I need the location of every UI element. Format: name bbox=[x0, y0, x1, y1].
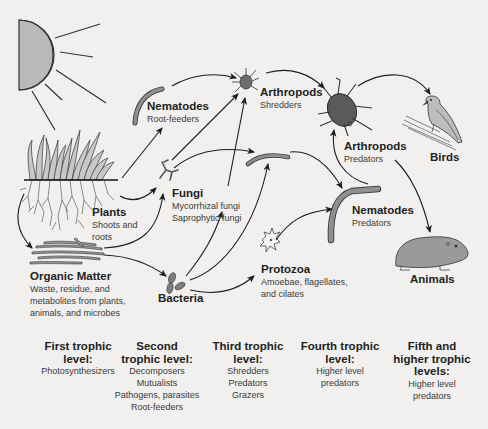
node-organic-matter: Organic Matter Waste, residue, and metab… bbox=[30, 270, 126, 319]
fungi-hyphae-icon bbox=[160, 160, 178, 180]
trophic-level-heading: Second bbox=[106, 340, 208, 353]
node-subtitle: Waste, residue, and bbox=[30, 283, 126, 295]
node-subtitle: Predators bbox=[352, 217, 414, 229]
trophic-level-5: Fifth and higher trophic levels: Higher … bbox=[392, 340, 472, 402]
node-title: Protozoa bbox=[261, 263, 348, 276]
node-nematodes-predators: Nematodes Predators bbox=[352, 204, 414, 229]
node-title: Arthropods bbox=[344, 140, 407, 153]
node-subtitle: and cilates bbox=[261, 288, 348, 300]
mammal-icon bbox=[396, 237, 468, 270]
trophic-level-item: Higher level bbox=[392, 378, 472, 390]
node-arthropods-shredders: Arthropods Shredders bbox=[260, 86, 323, 111]
beetle-icon bbox=[318, 78, 372, 136]
node-title: Birds bbox=[430, 151, 459, 164]
arrows bbox=[18, 70, 430, 292]
node-subtitle: Amoebae, flagellates, bbox=[261, 276, 348, 288]
node-subtitle: roots bbox=[92, 231, 138, 243]
trophic-level-item: Root-feeders bbox=[106, 401, 208, 413]
bacteria-icon bbox=[166, 272, 186, 294]
node-title: Arthropods bbox=[260, 86, 323, 99]
trophic-level-heading: Third trophic bbox=[208, 340, 288, 353]
trophic-level-4: Fourth trophic level: Higher level preda… bbox=[300, 340, 380, 389]
node-nematodes-root-feeders: Nematodes Root-feeders bbox=[147, 100, 209, 125]
node-title: Animals bbox=[410, 273, 455, 286]
trophic-level-heading: Fourth trophic bbox=[300, 340, 380, 353]
node-subtitle: Root-feeders bbox=[147, 113, 209, 125]
node-plants: Plants Shoots and roots bbox=[92, 206, 138, 243]
trophic-level-3: Third trophic level: Shredders Predators… bbox=[208, 340, 288, 401]
trophic-level-heading: levels: bbox=[392, 365, 472, 378]
trophic-level-heading: higher trophic bbox=[392, 353, 472, 366]
node-title: Fungi bbox=[172, 187, 242, 200]
node-title: Plants bbox=[92, 206, 138, 219]
node-subtitle: Shredders bbox=[260, 99, 323, 111]
node-title: Organic Matter bbox=[30, 270, 126, 283]
trophic-level-item: predators bbox=[392, 390, 472, 402]
node-title: Bacteria bbox=[158, 292, 203, 305]
trophic-level-item: Pathogens, parasites bbox=[106, 389, 208, 401]
node-bacteria: Bacteria bbox=[158, 292, 203, 305]
trophic-level-item: Predators bbox=[208, 377, 288, 389]
trophic-level-heading: level: bbox=[300, 353, 380, 366]
trophic-level-heading: Fifth and bbox=[392, 340, 472, 353]
node-subtitle: Saprophytic fungi bbox=[172, 212, 242, 224]
trophic-level-heading: level: bbox=[208, 353, 288, 366]
node-animals: Animals bbox=[410, 273, 455, 286]
node-subtitle: metabolites from plants, bbox=[30, 295, 126, 307]
trophic-level-item: predators bbox=[300, 377, 380, 389]
node-subtitle: Shoots and bbox=[92, 219, 138, 231]
node-title: Nematodes bbox=[147, 100, 209, 113]
trophic-level-heading: trophic level: bbox=[106, 353, 208, 366]
node-fungi: Fungi Mycorrhizal fungi Saprophytic fung… bbox=[172, 187, 242, 224]
node-birds: Birds bbox=[430, 151, 459, 164]
trophic-level-item: Decomposers bbox=[106, 365, 208, 377]
trophic-level-item: Shredders bbox=[208, 365, 288, 377]
protozoa-icon bbox=[260, 228, 280, 252]
bird-icon bbox=[402, 96, 462, 150]
node-arthropods-predators: Arthropods Predators bbox=[344, 140, 407, 165]
trophic-level-item: Mutualists bbox=[106, 377, 208, 389]
sun-icon bbox=[19, 20, 106, 130]
node-protozoa: Protozoa Amoebae, flagellates, and cilat… bbox=[261, 263, 348, 300]
node-subtitle: animals, and microbes bbox=[30, 307, 126, 319]
trophic-level-2: Second trophic level: Decomposers Mutual… bbox=[106, 340, 208, 413]
trophic-level-item: Grazers bbox=[208, 389, 288, 401]
node-subtitle: Predators bbox=[344, 153, 407, 165]
mite-icon bbox=[232, 68, 259, 92]
trophic-level-item: Higher level bbox=[300, 365, 380, 377]
node-title: Nematodes bbox=[352, 204, 414, 217]
node-subtitle: Mycorrhizal fungi bbox=[172, 200, 242, 212]
